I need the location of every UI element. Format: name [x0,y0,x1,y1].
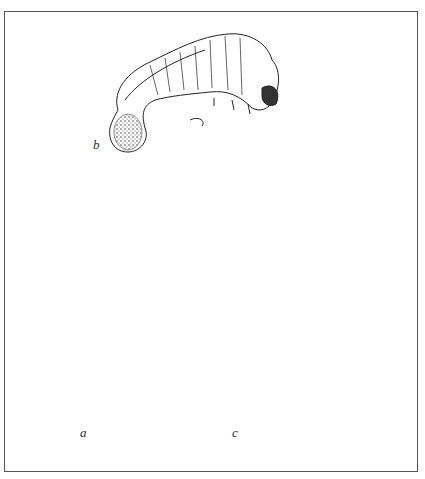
label-larva: b [93,137,100,153]
illustration [0,0,425,479]
larva-drawing [110,34,279,152]
label-large-beetle: c [232,425,238,441]
label-small-beetle: a [80,425,87,441]
